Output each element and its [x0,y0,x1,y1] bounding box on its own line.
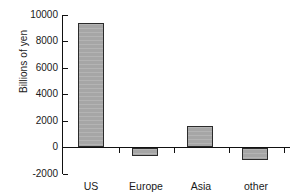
y-axis-tick [63,174,68,175]
y-axis-tick [63,94,68,95]
y-axis-tick [63,68,68,69]
x-axis-label-asia: Asia [191,181,211,192]
y-tick-label: 4000 [14,89,58,99]
x-axis-label-us: US [84,181,99,192]
y-tick-label: 6000 [14,63,58,73]
bar-us [78,23,104,147]
y-tick-label: -2000 [14,169,58,179]
plot-area: US Europe Asia other [62,15,290,178]
x-axis-tick [229,148,230,153]
y-tick-label: 0 [14,142,58,152]
x-axis-tick [174,148,175,153]
y-axis-tick [63,15,68,16]
x-axis-label-europe: Europe [129,181,163,192]
y-tick-label: 10000 [14,10,58,20]
y-axis-tick [63,41,68,42]
y-axis-tick-labels: 10000 8000 6000 4000 2000 0 -2000 [12,0,58,193]
bar-asia [187,126,213,147]
x-axis-tick [119,148,120,153]
bar-europe [132,148,158,156]
y-axis-tick [63,147,68,148]
bar-chart: Billions of yen 10000 8000 6000 4000 200… [0,0,298,193]
bar-other [242,148,268,160]
x-axis-label-other: other [244,181,268,192]
y-tick-label: 2000 [14,116,58,126]
x-axis-tick [284,148,285,153]
y-tick-label: 8000 [14,36,58,46]
y-axis-tick [63,121,68,122]
